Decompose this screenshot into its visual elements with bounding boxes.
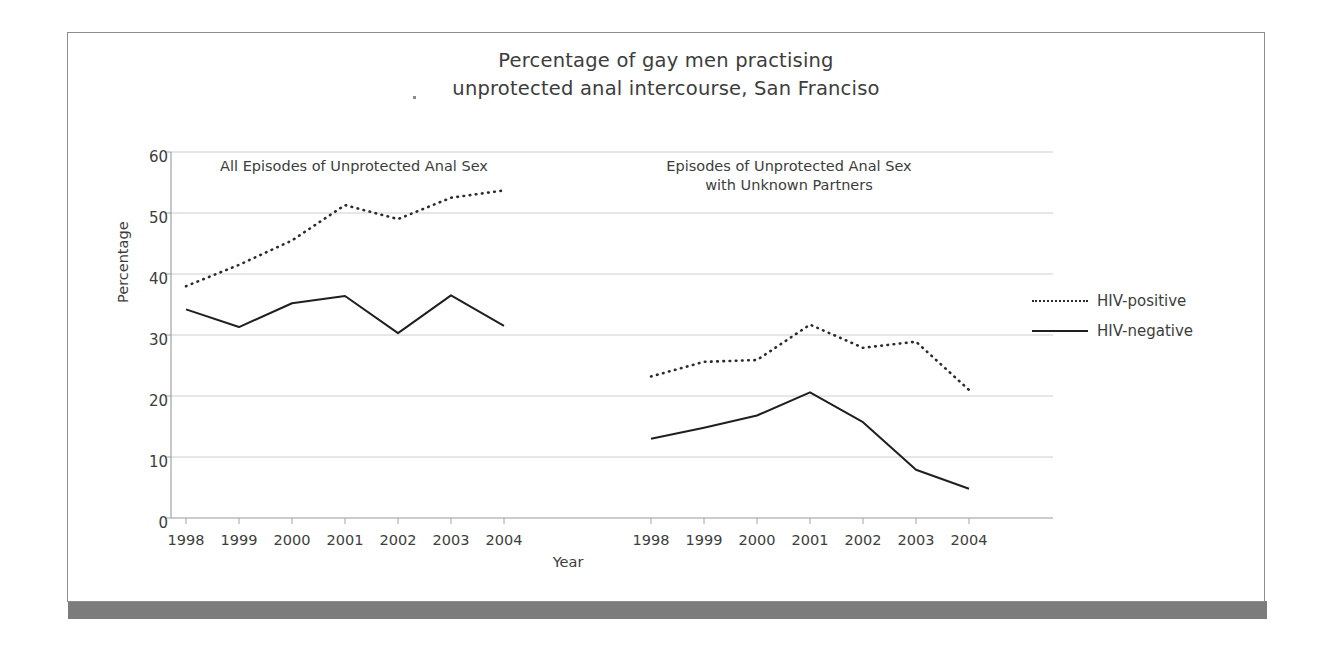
series-line-hiv-positive-panel-1 — [651, 325, 969, 390]
x-tick-label-1-2000: 2000 — [732, 532, 782, 548]
series-line-hiv-negative-panel-1 — [651, 392, 969, 488]
panel-caption-left-line-1: All Episodes of Unprotected Anal Sex — [209, 157, 499, 176]
chart-title-line-1: Percentage of gay men practising — [68, 47, 1264, 75]
legend-swatch-dotted-icon — [1030, 295, 1092, 307]
legend: HIV-positive HIV-negative — [1030, 286, 1193, 346]
x-tick-label-0-2002: 2002 — [373, 532, 423, 548]
x-tick-label-0-1998: 1998 — [161, 532, 211, 548]
x-tick-label-0-2004: 2004 — [479, 532, 529, 548]
legend-item-hiv-positive: HIV-positive — [1030, 286, 1193, 316]
legend-label-hiv-positive: HIV-positive — [1097, 292, 1186, 310]
panel-caption-left: All Episodes of Unprotected Anal Sex — [209, 157, 499, 176]
y-axis-ticks: 60 50 40 30 20 10 0 — [126, 33, 168, 601]
gridlines — [171, 152, 1053, 518]
y-tick-10: 10 — [126, 453, 168, 471]
x-tick-label-0-2001: 2001 — [320, 532, 370, 548]
figure-drop-shadow — [68, 601, 1267, 619]
x-tick-label-1-2003: 2003 — [891, 532, 941, 548]
y-tick-20: 20 — [126, 392, 168, 410]
data-series-layer — [186, 190, 969, 488]
y-tick-0: 0 — [126, 514, 168, 532]
y-tick-40: 40 — [126, 270, 168, 288]
x-tick-label-0-2003: 2003 — [426, 532, 476, 548]
y-tick-30: 30 — [126, 331, 168, 349]
x-tick-label-1-2002: 2002 — [838, 532, 888, 548]
chart-title: Percentage of gay men practising unprote… — [68, 47, 1264, 103]
legend-item-hiv-negative: HIV-negative — [1030, 316, 1193, 346]
x-tick-label-1-1999: 1999 — [679, 532, 729, 548]
x-axis-label: Year — [68, 554, 1068, 570]
legend-swatch-solid-icon — [1030, 325, 1092, 337]
panel-caption-right: Episodes of Unprotected Anal Sex with Un… — [624, 157, 954, 195]
chart-title-line-2: unprotected anal intercourse, San Franci… — [68, 75, 1264, 103]
series-line-hiv-positive-panel-0 — [186, 190, 504, 286]
x-tick-label-1-2004: 2004 — [944, 532, 994, 548]
x-tick-label-0-2000: 2000 — [267, 532, 317, 548]
series-line-hiv-negative-panel-0 — [186, 295, 504, 333]
panel-caption-right-line-1: Episodes of Unprotected Anal Sex — [624, 157, 954, 176]
panel-caption-right-line-2: with Unknown Partners — [624, 176, 954, 195]
x-tick-label-1-1998: 1998 — [626, 532, 676, 548]
y-tick-60: 60 — [126, 148, 168, 166]
legend-label-hiv-negative: HIV-negative — [1097, 322, 1193, 340]
y-tick-50: 50 — [126, 209, 168, 227]
stray-speck — [413, 96, 416, 99]
x-tick-label-0-1999: 1999 — [214, 532, 264, 548]
x-tick-label-1-2001: 2001 — [785, 532, 835, 548]
figure-frame: Percentage of gay men practising unprote… — [67, 32, 1265, 602]
x-tick-marks — [186, 518, 969, 524]
